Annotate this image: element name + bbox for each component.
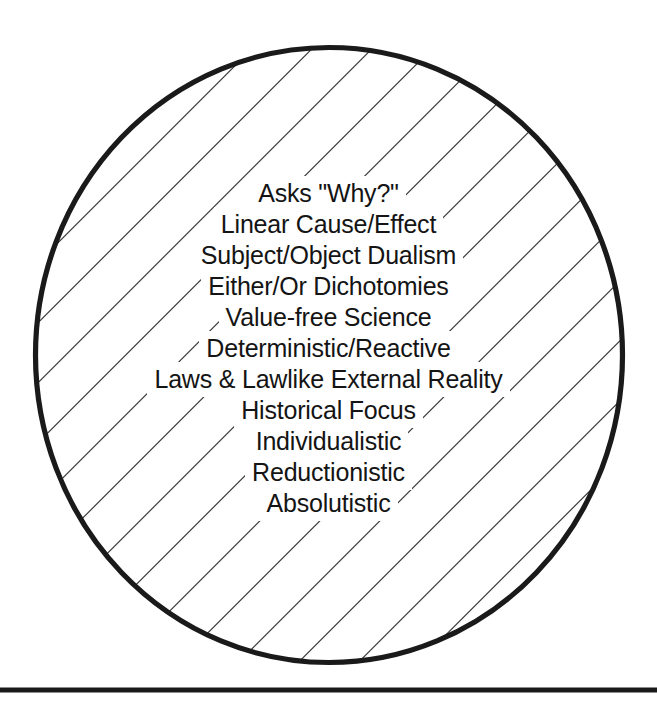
hatched-circle-figure [0,0,657,710]
figure-root: Asks "Why?" Linear Cause/Effect Subject/… [0,0,657,710]
